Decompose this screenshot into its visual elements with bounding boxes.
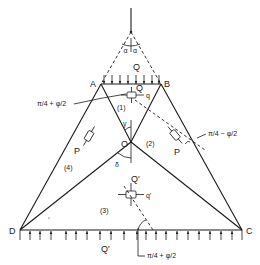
point-d-label: D (9, 226, 16, 236)
zone-3-normal-label: Q' (131, 174, 140, 184)
zone-3-label: (3) (100, 207, 109, 215)
point-c-label: C (246, 226, 253, 236)
top-load-arrows (103, 75, 160, 84)
bottom-angle-leader (138, 228, 145, 256)
bottom-load-arrows (20, 230, 242, 240)
stray-dot (48, 217, 49, 218)
edge-b-c (161, 84, 242, 230)
alpha-left-label: α (124, 47, 128, 54)
bottom-load-label: Q' (101, 244, 110, 254)
point-b-label: B (164, 79, 170, 89)
top-angle-leader (74, 94, 126, 104)
minus-angle-label: π/4 − φ/2 (208, 130, 237, 138)
zone-2-label: (2) (146, 140, 155, 148)
zone-2-p-label: P (174, 147, 180, 157)
minus-angle-leader (197, 134, 206, 138)
point-a-label: A (90, 79, 96, 89)
zone-3-angle-arc (138, 220, 146, 230)
zone-4-label: (4) (64, 164, 73, 172)
zone-3-tangent-label: q' (146, 192, 151, 200)
edge-a-o (101, 84, 131, 142)
zone-1-label: (1) (117, 104, 126, 112)
zone-2-stress-element (166, 125, 185, 146)
top-load-label: Q (133, 62, 140, 72)
zone-1-tangent-label: q (146, 92, 150, 100)
alpha-right-label: α (133, 47, 137, 54)
bottom-angle-label: π/4 + φ/2 (147, 252, 176, 260)
slip-line-diagram: α α Q A B (0, 0, 260, 265)
gamma-arc (125, 127, 131, 130)
delta-label: δ (115, 161, 119, 168)
gamma-label: γ (123, 120, 127, 128)
apex-to-a-dashed (101, 32, 131, 84)
zone-4-stress-element (81, 125, 97, 147)
zone-3-stress-element (118, 183, 144, 206)
zone-1-normal-label: Q (136, 83, 143, 93)
delta-arc (118, 153, 131, 158)
top-angle-label: π/4 + φ/2 (37, 100, 66, 108)
point-o-label: O (121, 139, 128, 149)
edge-o-c (131, 142, 242, 230)
zone-2-angle-arc (185, 141, 190, 144)
apex-to-b-dashed (131, 32, 161, 84)
zone-4-p-label: P (74, 146, 80, 156)
